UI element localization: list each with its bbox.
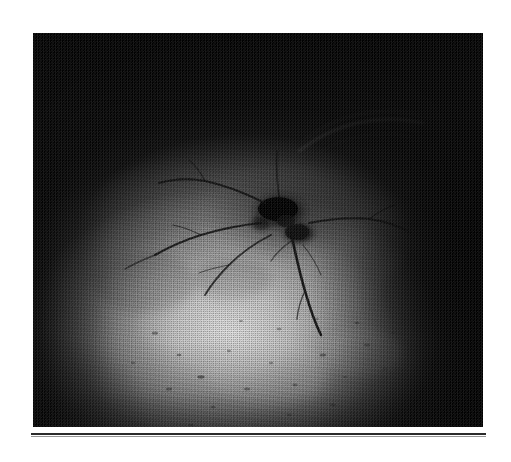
photo-illumination-layer [33, 33, 483, 427]
photo-striation-texture [33, 33, 483, 427]
photo-film-grain [33, 33, 483, 427]
figure-photograph [33, 33, 483, 427]
figure-separator-rule-shadow [31, 436, 486, 437]
photo-scanline-banding [33, 33, 483, 427]
photo-crack-overlay [33, 33, 483, 427]
photo-halftone-screen [33, 33, 483, 427]
photo-corner-darkening-layer [33, 33, 483, 427]
document-page [0, 0, 511, 462]
photo-vignette-layer [33, 33, 483, 427]
figure-separator-rule [31, 433, 486, 435]
